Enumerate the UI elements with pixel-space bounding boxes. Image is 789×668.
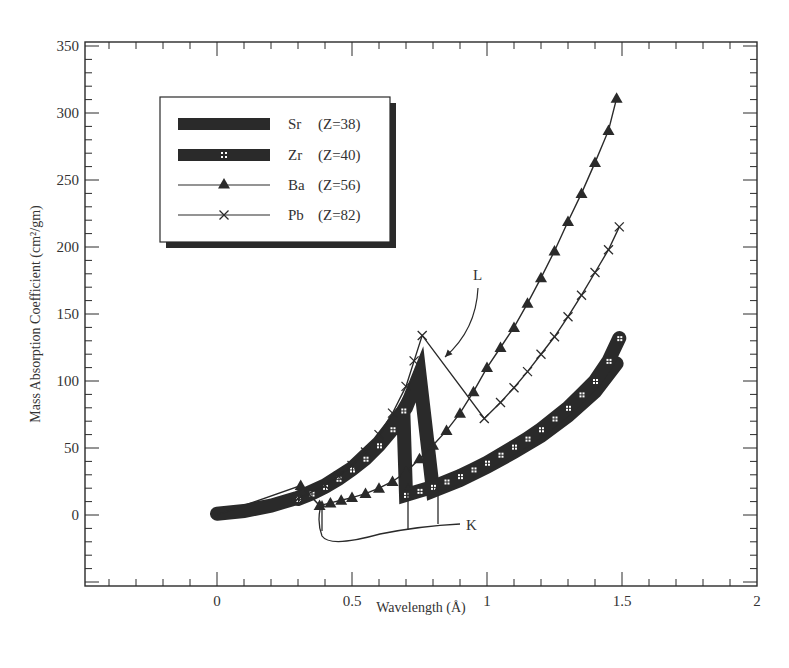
y-tick-label: 100 — [57, 373, 80, 389]
legend-z-label: (Z=40) — [318, 147, 361, 164]
y-tick-label: 0 — [72, 507, 80, 523]
x-tick-label: 0 — [213, 593, 221, 609]
y-tick-label: 200 — [57, 239, 80, 255]
y-tick-label: 150 — [57, 306, 80, 322]
y-tick-label: 350 — [57, 38, 80, 54]
legend-label: Sr — [288, 116, 301, 132]
y-axis-title: Mass Absorption Coefficient (cm²/gm) — [28, 205, 44, 423]
y-tick-label: 250 — [57, 172, 80, 188]
y-tick-label: 50 — [64, 440, 79, 456]
x-tick-label: 0.5 — [343, 593, 362, 609]
legend-z-label: (Z=56) — [318, 177, 361, 194]
x-tick-label: 1 — [483, 593, 491, 609]
series-pb — [294, 222, 624, 503]
legend-z-label: (Z=38) — [318, 116, 361, 133]
x-tick-label: 1.5 — [613, 593, 632, 609]
y-tick-label: 300 — [57, 105, 80, 121]
chart-canvas: 00.511.52050100150200250300350 L K Wavel… — [0, 0, 789, 668]
legend-z-label: (Z=82) — [318, 207, 361, 224]
legend-label: Pb — [288, 207, 304, 223]
x-tick-label: 2 — [753, 593, 761, 609]
legend-label: Ba — [288, 177, 305, 193]
annotation-K: K — [466, 517, 477, 533]
legend-label: Zr — [288, 147, 302, 163]
legend: Sr(Z=38)Zr(Z=40)Ba(Z=56)Pb(Z=82) — [160, 97, 396, 248]
annotation-L: L — [473, 267, 482, 283]
x-axis-title: Wavelength (Å) — [376, 600, 466, 616]
